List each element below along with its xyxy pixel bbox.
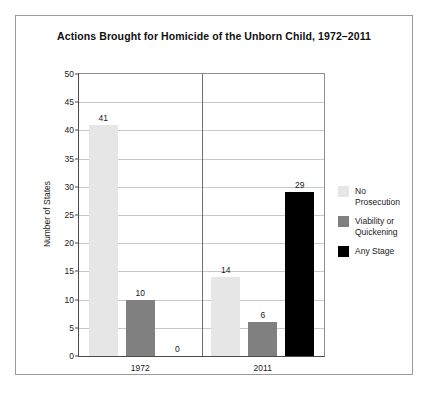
y-tick-label: 40	[65, 125, 74, 135]
chart-legend: No ProsecutionViability or QuickeningAny…	[338, 186, 408, 266]
chart-figure: Actions Brought for Homicide of the Unbo…	[15, 15, 413, 375]
bar	[285, 192, 314, 356]
y-tick-label: 30	[65, 182, 74, 192]
bar-value-label: 14	[221, 265, 230, 275]
y-tick-label: 10	[65, 295, 74, 305]
y-tick-label: 35	[65, 154, 74, 164]
y-tick-mark	[75, 186, 79, 187]
bar-value-label: 10	[136, 288, 145, 298]
bar-value-label: 0	[175, 344, 180, 354]
legend-item: No Prosecution	[338, 186, 408, 207]
legend-label: Any Stage	[355, 246, 394, 257]
y-tick-mark	[75, 158, 79, 159]
bar	[248, 322, 277, 356]
y-tick-label: 0	[69, 351, 74, 361]
y-tick-mark	[75, 102, 79, 103]
y-tick-label: 45	[65, 97, 74, 107]
legend-swatch-icon	[338, 186, 349, 197]
group-divider	[202, 74, 203, 356]
y-tick-label: 50	[65, 69, 74, 79]
y-tick-label: 25	[65, 210, 74, 220]
y-tick-mark	[75, 243, 79, 244]
bar-value-label: 41	[99, 113, 108, 123]
y-tick-mark	[75, 271, 79, 272]
y-tick-label: 15	[65, 266, 74, 276]
y-tick-mark	[75, 327, 79, 328]
bar	[89, 125, 118, 356]
bar-value-label: 29	[295, 180, 304, 190]
y-axis-label-text: Number of States	[42, 73, 52, 355]
y-tick-mark	[75, 299, 79, 300]
y-tick-mark	[75, 130, 79, 131]
y-tick-mark	[75, 356, 79, 357]
legend-item: Viability or Quickening	[338, 216, 408, 237]
bar-value-label: 6	[260, 310, 265, 320]
x-tick-label: 2011	[254, 363, 272, 373]
legend-swatch-icon	[338, 246, 349, 257]
y-axis-label: Number of States	[42, 0, 54, 73]
chart-title: Actions Brought for Homicide of the Unbo…	[16, 30, 412, 42]
legend-label: No Prosecution	[355, 186, 408, 207]
y-tick-label: 5	[69, 323, 74, 333]
legend-swatch-icon	[338, 216, 349, 227]
y-tick-label: 20	[65, 238, 74, 248]
legend-item: Any Stage	[338, 246, 408, 257]
plot-area: 05101520253035404550411001972146292011	[78, 73, 325, 357]
bar	[211, 277, 240, 356]
bar	[126, 300, 155, 356]
x-tick-label: 1972	[131, 363, 150, 373]
y-tick-mark	[75, 215, 79, 216]
legend-label: Viability or Quickening	[355, 216, 398, 237]
y-tick-mark	[75, 74, 79, 75]
